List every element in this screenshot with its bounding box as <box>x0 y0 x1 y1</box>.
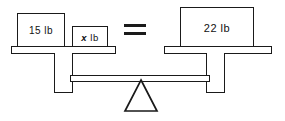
weight-label-15lb: 15 lb <box>29 26 53 36</box>
weight-block-xlb: x lb <box>72 26 108 48</box>
equals-sign <box>124 24 146 36</box>
weight-label-22lb: 22 lb <box>204 23 230 34</box>
equals-sign-lower-stroke <box>124 32 146 35</box>
right-support-post <box>206 53 225 93</box>
left-support-post <box>54 53 73 93</box>
equals-sign-upper-stroke <box>124 24 146 27</box>
weight-label-xlb: x lb <box>81 33 98 43</box>
weight-block-22lb: 22 lb <box>180 7 254 48</box>
weight-block-15lb: 15 lb <box>17 13 65 48</box>
balance-scale-diagram: 15 lb x lb 22 lb <box>0 0 285 121</box>
fulcrum-triangle-icon <box>122 78 160 114</box>
unit-label-lb: lb <box>87 32 99 43</box>
